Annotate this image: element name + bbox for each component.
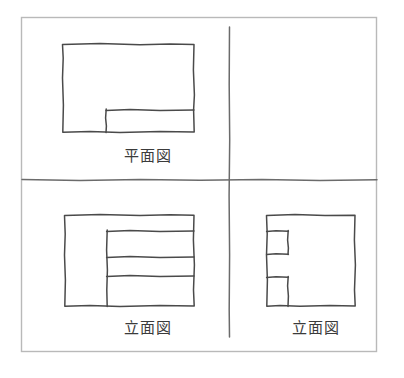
side-elevation-box-bottom-upper	[267, 277, 289, 278]
plan-view-label: 平面図	[124, 144, 172, 165]
divider-vertical	[229, 27, 230, 337]
side-elevation-box-top-lower	[267, 254, 289, 255]
side-elevation-drawing	[267, 215, 356, 307]
front-elevation-mullion	[107, 230, 108, 306]
side-elevation-outline	[267, 215, 356, 307]
plan-outline	[63, 44, 195, 133]
front-elevation-drawing	[65, 215, 195, 307]
sheet-border	[22, 18, 377, 352]
drawing-sheet: 平面図 立面図 立面図	[0, 0, 404, 378]
side-elevation-box-bottom-right	[288, 277, 289, 307]
side-elevation-label: 立面図	[292, 316, 340, 337]
side-elevation-box-top-upper	[267, 231, 289, 232]
front-elevation-label: 立面図	[124, 316, 172, 337]
divider-horizontal	[22, 179, 377, 180]
front-elevation-rail-2	[107, 257, 194, 258]
sketch-canvas	[0, 0, 404, 378]
plan-interior-horizontal	[106, 110, 194, 111]
plan-interior-vertical	[106, 109, 107, 133]
side-elevation-box-top-right	[288, 231, 289, 255]
front-elevation-outline	[65, 215, 195, 307]
plan-view-drawing	[63, 44, 195, 133]
front-elevation-rail-3	[107, 276, 194, 277]
front-elevation-rail-1	[107, 231, 194, 232]
